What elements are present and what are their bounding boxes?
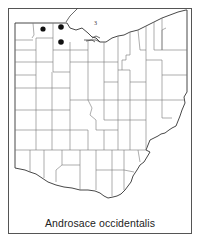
species-label: Androsace occidentalis bbox=[8, 217, 192, 229]
record-dot-3 bbox=[58, 39, 64, 45]
ohio-county-map bbox=[0, 0, 200, 243]
county-boundaries bbox=[15, 18, 187, 196]
record-dot-1 bbox=[40, 26, 45, 31]
lake-marker: 3 bbox=[94, 20, 97, 26]
record-dot-2 bbox=[58, 24, 64, 30]
